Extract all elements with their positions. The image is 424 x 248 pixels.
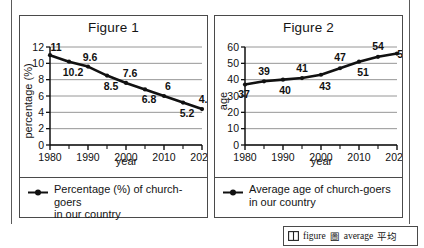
- figure-1-chart: 024681012198019902000201020201110.29.68.…: [20, 37, 207, 165]
- svg-text:8.5: 8.5: [104, 80, 119, 92]
- figure-1-panel: Figure 1 percentage (%) 0246810121980199…: [19, 15, 208, 218]
- svg-text:4.4: 4.4: [199, 93, 207, 105]
- figure-1-legend-line-2: in our country: [54, 208, 201, 221]
- svg-text:41: 41: [296, 62, 308, 74]
- figure-1-legend: Percentage (%) of church-goers in our co…: [20, 177, 207, 213]
- svg-text:50: 50: [227, 57, 239, 69]
- svg-text:37: 37: [238, 88, 250, 100]
- svg-text:40: 40: [279, 84, 291, 96]
- figure-1-plot-area: percentage (%) 0246810121980199020002010…: [20, 37, 207, 165]
- figure-1-legend-line-1: Percentage (%) of church-goers: [54, 183, 201, 208]
- vocab-gloss-1: 平均: [377, 229, 397, 243]
- svg-text:39: 39: [258, 65, 270, 77]
- svg-text:10: 10: [227, 122, 239, 134]
- svg-text:0: 0: [38, 139, 44, 151]
- svg-text:4: 4: [38, 106, 44, 118]
- svg-text:8: 8: [38, 73, 44, 85]
- svg-text:10: 10: [32, 57, 44, 69]
- svg-text:6: 6: [38, 90, 44, 102]
- vocab-term-1: average: [344, 231, 374, 241]
- svg-text:54: 54: [372, 40, 384, 52]
- svg-text:2: 2: [38, 122, 44, 134]
- svg-text:47: 47: [334, 51, 346, 63]
- book-icon: [288, 231, 299, 241]
- svg-text:5.2: 5.2: [180, 107, 195, 119]
- svg-text:7.6: 7.6: [123, 67, 138, 79]
- svg-text:10.2: 10.2: [63, 66, 84, 78]
- svg-text:51: 51: [357, 66, 369, 78]
- svg-text:11: 11: [50, 41, 61, 53]
- figure-2-legend-line-1: Average age of church-goers: [249, 183, 391, 196]
- svg-text:6.8: 6.8: [142, 93, 157, 105]
- figure-1-x-axis-label: year: [20, 155, 207, 167]
- line-dot-marker-icon: [27, 188, 49, 197]
- svg-text:20: 20: [227, 106, 239, 118]
- vocab-gloss-0: 圖: [330, 229, 340, 243]
- figure-2-legend-line-2: in our country: [249, 196, 391, 209]
- figure-2-panel: Figure 2 age 010203040506019801990200020…: [214, 15, 403, 218]
- figure-2-title: Figure 2: [215, 20, 402, 35]
- vocabulary-box: figure 圖 average 平均: [283, 226, 418, 246]
- svg-text:12: 12: [32, 41, 44, 53]
- svg-text:0: 0: [233, 139, 239, 151]
- svg-text:56: 56: [397, 48, 402, 60]
- svg-text:60: 60: [227, 41, 239, 53]
- figure-2-legend: Average age of church-goers in our count…: [215, 177, 402, 213]
- svg-text:9.6: 9.6: [83, 51, 98, 63]
- svg-text:40: 40: [227, 73, 239, 85]
- figure-2-plot-area: age 010203040506019801990200020102020373…: [215, 37, 402, 165]
- svg-text:43: 43: [319, 80, 331, 92]
- line-dot-marker-icon: [222, 188, 244, 197]
- figure-2-x-axis-label: year: [215, 155, 402, 167]
- figure-1-title: Figure 1: [20, 20, 207, 35]
- vocab-term-0: figure: [303, 231, 326, 241]
- svg-text:6: 6: [165, 80, 171, 92]
- figure-2-chart: 0102030405060198019902000201020203739404…: [215, 37, 402, 165]
